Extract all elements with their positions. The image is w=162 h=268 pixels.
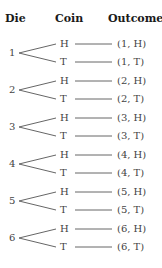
coin-value: H	[60, 112, 69, 124]
die-to-coin-branch	[19, 44, 56, 53]
die-to-coin-branch	[19, 127, 56, 136]
die-to-coin-branch	[19, 53, 56, 62]
outcome-value: (5, T)	[117, 204, 144, 216]
outcome-value: (6, H)	[117, 223, 146, 235]
die-value: 5	[9, 195, 15, 207]
coin-value: H	[60, 38, 69, 50]
die-to-coin-branch	[19, 238, 56, 247]
die-value: 2	[9, 84, 15, 96]
coin-value: T	[60, 56, 67, 68]
coin-value: T	[60, 130, 67, 142]
outcome-value: (1, T)	[117, 56, 144, 68]
outcome-value: (2, T)	[117, 93, 144, 105]
die-value: 6	[9, 232, 15, 244]
coin-value: T	[60, 241, 67, 253]
die-to-coin-branch	[19, 229, 56, 238]
die-to-coin-branch	[19, 81, 56, 90]
coin-value: T	[60, 93, 67, 105]
die-to-coin-branch	[19, 192, 56, 201]
die-value: 3	[9, 121, 15, 133]
outcome-value: (5, H)	[117, 186, 146, 198]
outcome-value: (3, T)	[117, 130, 144, 142]
die-to-coin-branch	[19, 164, 56, 173]
coin-value: H	[60, 223, 69, 235]
outcome-value: (6, T)	[117, 241, 144, 253]
coin-value: H	[60, 75, 69, 87]
die-value: 1	[9, 47, 15, 59]
outcome-value: (4, T)	[117, 167, 144, 179]
die-to-coin-branch	[19, 90, 56, 99]
die-to-coin-branch	[19, 201, 56, 210]
die-to-coin-branch	[19, 118, 56, 127]
coin-value: H	[60, 186, 69, 198]
coin-value: H	[60, 149, 69, 161]
outcome-value: (4, H)	[117, 149, 146, 161]
outcome-value: (2, H)	[117, 75, 146, 87]
outcome-value: (1, H)	[117, 38, 146, 50]
die-to-coin-branch	[19, 155, 56, 164]
coin-value: T	[60, 204, 67, 216]
die-value: 4	[9, 158, 15, 170]
coin-value: T	[60, 167, 67, 179]
outcome-value: (3, H)	[117, 112, 146, 124]
